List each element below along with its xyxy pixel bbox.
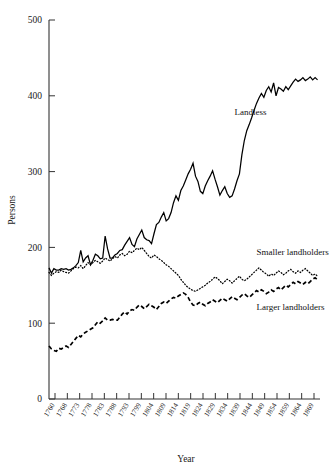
x-tick-label: 1829 xyxy=(203,401,218,418)
x-tick-label: 1793 xyxy=(116,401,131,418)
y-tick-label: 500 xyxy=(28,15,43,25)
y-axis-tick-labels: 0100200300400500 xyxy=(28,15,43,404)
x-tick-label: 1814 xyxy=(166,401,181,418)
y-tick-label: 400 xyxy=(28,91,43,101)
x-tick-label: 1760 xyxy=(42,401,57,418)
x-axis-ticks xyxy=(55,393,314,399)
line-chart: 0100200300400500 17601768177317781783178… xyxy=(0,0,332,471)
x-tick-label: 1844 xyxy=(240,401,255,418)
annotation-larger-landholders: Larger landholders xyxy=(257,302,326,312)
annotation-landless: Landless xyxy=(235,107,267,117)
x-tick-label: 1869 xyxy=(301,401,316,418)
y-tick-label: 200 xyxy=(28,243,43,253)
series-line-larger-landholders xyxy=(49,278,318,352)
x-tick-label: 1854 xyxy=(264,401,279,418)
chart-container: 0100200300400500 17601768177317781783178… xyxy=(0,0,332,471)
x-axis-tick-labels: 1760176817731778178317881793179918041809… xyxy=(42,401,316,418)
x-tick-label: 1804 xyxy=(141,401,156,418)
x-tick-label: 1819 xyxy=(178,401,193,418)
x-tick-label: 1768 xyxy=(55,401,70,418)
x-tick-label: 1799 xyxy=(129,401,144,418)
x-tick-label: 1824 xyxy=(190,401,205,418)
x-tick-label: 1788 xyxy=(104,401,119,418)
x-tick-label: 1859 xyxy=(277,401,292,418)
series-line-landless xyxy=(49,77,318,273)
y-axis-ticks xyxy=(49,20,55,399)
x-tick-label: 1839 xyxy=(227,401,242,418)
y-tick-label: 100 xyxy=(28,319,43,329)
y-axis-title: Persons xyxy=(7,195,17,225)
y-tick-label: 0 xyxy=(37,394,42,404)
x-tick-label: 1849 xyxy=(252,401,267,418)
x-tick-label: 1778 xyxy=(79,401,94,418)
x-tick-label: 1783 xyxy=(92,401,107,418)
x-tick-label: 1834 xyxy=(215,401,230,418)
x-tick-label: 1809 xyxy=(153,401,168,418)
y-tick-label: 300 xyxy=(28,167,43,177)
annotation-smaller-landholders: Smaller landholders xyxy=(257,247,330,257)
series-annotations: LandlessSmaller landholdersLarger landho… xyxy=(235,107,330,313)
x-tick-label: 1773 xyxy=(67,401,82,418)
x-axis-title: Year xyxy=(177,454,195,464)
x-tick-label: 1864 xyxy=(289,401,304,418)
